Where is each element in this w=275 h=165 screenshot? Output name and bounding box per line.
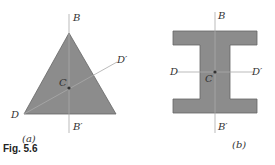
label-d-b: D (170, 67, 178, 77)
panel-b-label: (b) (232, 140, 246, 150)
label-c-b: C (205, 74, 213, 84)
label-d-prime-b: D′ (252, 67, 262, 77)
label-b-prime-a: B′ (73, 122, 83, 132)
label-d-a: D (11, 110, 19, 120)
panel-a-triangle (24, 14, 117, 133)
label-b-top-a: B (73, 13, 80, 23)
label-b-top-b: B (218, 11, 225, 21)
label-b-prime-b: B′ (218, 122, 228, 132)
label-c-a: C (59, 78, 67, 88)
figure-caption: Fig. 5.6 (3, 143, 37, 154)
panel-b-i-section (173, 12, 257, 133)
label-d-prime-a: D′ (117, 55, 127, 65)
